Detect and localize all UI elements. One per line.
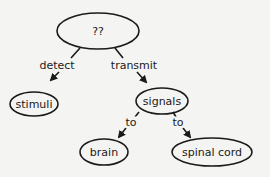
node-spinal-cord-label: spinal cord (182, 147, 242, 158)
node-signals-label: signals (143, 96, 181, 107)
concept-map: ?? stimuli signals brain spinal cord det… (0, 0, 270, 177)
edge-label-transmit: transmit (110, 60, 158, 71)
node-brain-label: brain (90, 147, 118, 158)
node-root-label: ?? (92, 26, 104, 37)
edge-label-detect: detect (38, 60, 75, 71)
edge-label-to-spinal-cord: to (171, 117, 184, 128)
edge-line-transmit-upper (115, 48, 123, 58)
node-stimuli-label: stimuli (16, 99, 53, 110)
edge-arrow-to-spinal (183, 128, 190, 137)
edge-arrow-detect (51, 72, 59, 80)
edge-arrow-transmit (137, 72, 146, 82)
edge-arrow-to-brain (119, 128, 126, 137)
edge-label-to-brain: to (124, 117, 137, 128)
edge-line-detect-upper (71, 48, 80, 58)
